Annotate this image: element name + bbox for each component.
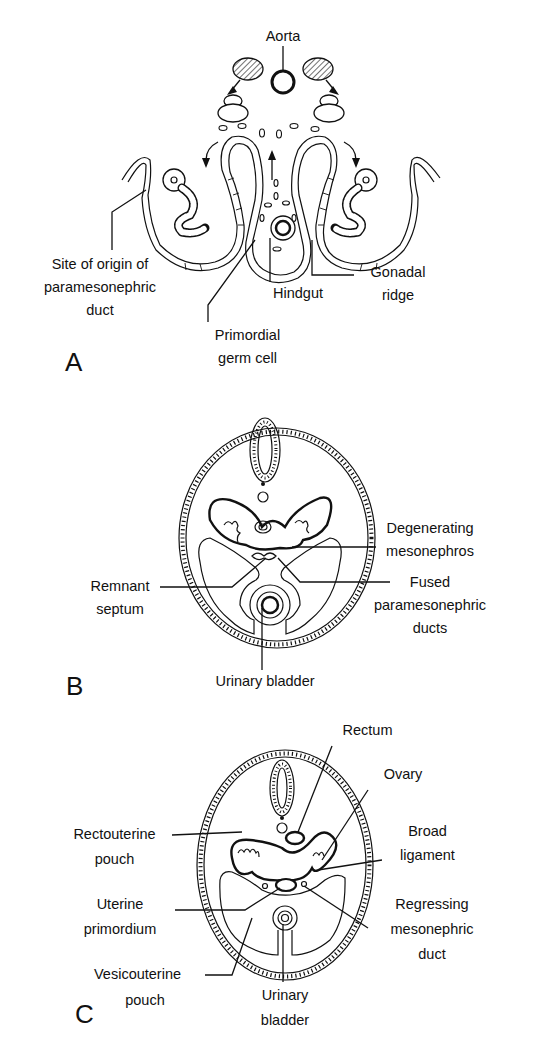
label-gonadal-2: ridge	[358, 287, 438, 304]
label-rectouterine-1: Rectouterine	[52, 826, 177, 843]
label-ovary: Ovary	[368, 766, 438, 783]
label-urinary-bladder: Urinary bladder	[190, 673, 340, 690]
label-remnant-1: Remnant	[70, 578, 170, 595]
label-rectouterine-2: pouch	[52, 851, 177, 868]
label-regressing-3: duct	[372, 946, 492, 963]
label-uterine-1: Uterine	[65, 896, 175, 913]
label-pgc-2: germ cell	[200, 350, 295, 367]
panel-b: Degenerating mesonephros Remnant septum …	[0, 390, 547, 710]
label-urinary-2: bladder	[245, 1012, 325, 1029]
label-fused-2: paramesonephric	[355, 597, 505, 614]
panel-letter-c: C	[75, 1000, 94, 1028]
panel-letter-b: B	[66, 672, 83, 700]
label-remnant-2: septum	[70, 601, 170, 618]
label-hindgut: Hindgut	[258, 285, 338, 302]
label-site-origin-2: paramesonephric	[20, 279, 180, 296]
label-vesicouterine-1: Vesicouterine	[75, 966, 200, 983]
label-regressing-1: Regressing	[372, 896, 492, 913]
panel-letter-a: A	[65, 348, 82, 376]
label-pgc-1: Primordial	[200, 327, 295, 344]
label-degenerating-1: Degenerating	[360, 520, 500, 537]
label-uterine-2: primordium	[65, 921, 175, 938]
label-urinary-1: Urinary	[245, 987, 325, 1004]
label-site-origin-3: duct	[20, 302, 180, 319]
label-degenerating-2: mesonephros	[360, 543, 500, 560]
label-site-origin-1: Site of origin of	[20, 256, 180, 273]
label-vesicouterine-2: pouch	[90, 992, 200, 1009]
panel-a: Aorta Site of origin of paramesonephric …	[0, 0, 547, 390]
label-fused-1: Fused	[355, 574, 505, 591]
label-regressing-2: mesonephric	[372, 921, 492, 938]
aorta-shape	[272, 71, 294, 93]
label-aorta: Aorta	[248, 28, 318, 45]
label-gonadal-1: Gonadal	[358, 264, 438, 281]
label-broad-2: ligament	[385, 847, 470, 864]
panel-c: Rectum Ovary Rectouterine pouch Broad li…	[0, 710, 547, 1058]
label-fused-3: ducts	[355, 620, 505, 637]
label-broad-1: Broad	[385, 823, 470, 840]
label-rectum: Rectum	[330, 722, 405, 739]
